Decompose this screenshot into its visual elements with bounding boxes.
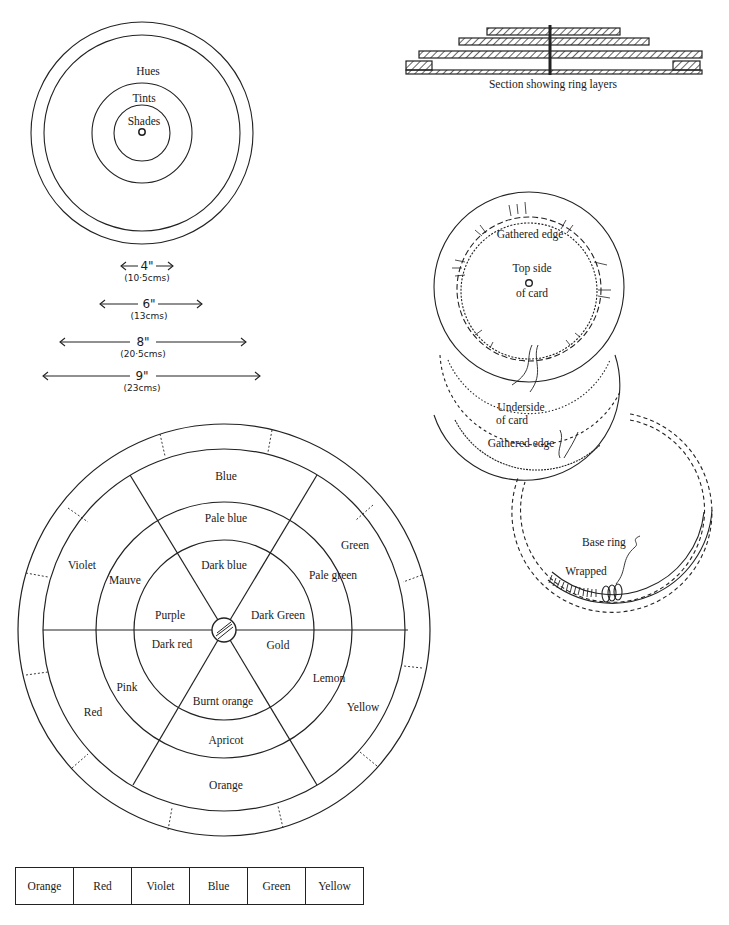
strip-cell: Green	[248, 868, 306, 904]
shade-dark-blue: Dark blue	[201, 559, 247, 571]
hue-violet: Violet	[68, 559, 97, 571]
strip-cell: Yellow	[306, 868, 363, 904]
tint-apricot: Apricot	[208, 734, 244, 747]
base-ring-label: Base ring	[582, 536, 626, 549]
top-side-label-line1: Top side	[512, 262, 551, 275]
shade-burnt-orange: Burnt orange	[193, 695, 253, 708]
concentric-rings-diagram	[31, 22, 253, 244]
hue-blue: Blue	[215, 470, 237, 482]
tint-mauve: Mauve	[109, 574, 141, 586]
strip-cell: Blue	[190, 868, 248, 904]
strip-cell: Orange	[16, 868, 74, 904]
shade-dark-red: Dark red	[152, 638, 193, 650]
ring-size-8-cms: (20·5cms)	[120, 349, 165, 359]
tints-label: Tints	[132, 92, 156, 104]
hue-orange: Orange	[209, 779, 243, 792]
ring-size-6-cms: (13cms)	[131, 311, 168, 321]
ring-size-8-inches: 8"	[136, 335, 149, 349]
shade-gold: Gold	[267, 639, 290, 651]
hue-red: Red	[84, 706, 103, 718]
tint-pale-green: Pale green	[309, 569, 357, 582]
ring-layers-section	[406, 25, 702, 75]
ring-size-4-inches: 4"	[140, 259, 153, 273]
tint-pale-blue: Pale blue	[205, 512, 247, 524]
shades-label: Shades	[128, 115, 161, 127]
underside-label-line2: of card	[496, 414, 528, 426]
top-side-label-line2: of card	[516, 287, 548, 299]
illustration-canvas: Hues Tints Shades 4" (10·5cms) 6" (13cms…	[0, 0, 729, 925]
underside-label-line1: Underside	[497, 401, 544, 413]
color-wheel	[18, 424, 430, 836]
color-order-strip: Orange Red Violet Blue Green Yellow	[15, 867, 364, 905]
shade-purple: Purple	[155, 609, 185, 622]
ring-size-9-cms: (23cms)	[124, 383, 161, 393]
hues-label: Hues	[136, 65, 160, 77]
section-caption: Section showing ring layers	[489, 78, 618, 91]
ring-size-6-inches: 6"	[142, 297, 155, 311]
strip-cell: Red	[74, 868, 132, 904]
ring-size-9-inches: 9"	[135, 369, 148, 383]
strip-cell: Violet	[132, 868, 190, 904]
shade-dark-green: Dark Green	[251, 609, 305, 621]
bottom-gathered-edge-label: Gathered edge	[488, 437, 555, 450]
hue-green: Green	[341, 539, 369, 551]
top-gathered-edge-label: Gathered edge	[497, 228, 564, 241]
tint-lemon: Lemon	[313, 672, 346, 684]
hue-yellow: Yellow	[347, 701, 380, 713]
wrapped-label: Wrapped	[565, 565, 607, 578]
ring-size-4-cms: (10·5cms)	[124, 273, 169, 283]
tint-pink: Pink	[116, 681, 137, 693]
